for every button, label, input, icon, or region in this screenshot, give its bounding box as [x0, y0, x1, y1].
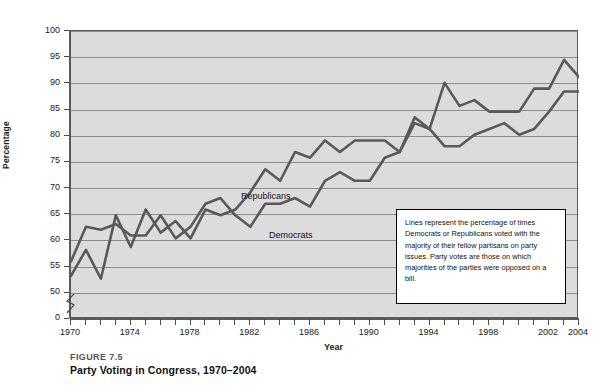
x-tick-label-1978: 1978 [170, 327, 210, 337]
x-tick-label-1986: 1986 [289, 327, 329, 337]
x-tick-mark-1974 [130, 319, 131, 325]
figure-title: Party Voting in Congress, 1970–2004 [70, 364, 490, 376]
x-tick-mark-1997 [473, 319, 474, 325]
x-tick-mark-1975 [145, 319, 146, 325]
x-tick-mark-1970 [70, 319, 71, 325]
x-tick-mark-1991 [384, 319, 385, 325]
x-tick-mark-2003 [563, 319, 564, 325]
x-tick-mark-1981 [234, 319, 235, 325]
y-tick-label-95: 95 [30, 52, 60, 61]
x-tick-label-1970: 1970 [50, 327, 90, 337]
y-tick-label-70: 70 [30, 183, 60, 192]
x-tick-mark-1989 [354, 319, 355, 325]
y-tick-label-80: 80 [30, 130, 60, 139]
x-tick-mark-2004 [578, 319, 579, 325]
x-tick-label-1974: 1974 [110, 327, 150, 337]
x-tick-mark-1992 [399, 319, 400, 325]
y-tick-mark-0 [64, 318, 69, 319]
x-tick-mark-1984 [279, 319, 280, 325]
figure-container: Republicans Democrats Percentage 100 95 … [0, 0, 607, 392]
y-axis-title: Percentage [1, 85, 11, 205]
y-tick-label-60: 60 [30, 235, 60, 244]
caption-block: FIGURE 7.5 Party Voting in Congress, 197… [70, 352, 490, 376]
y-tick-label-90: 90 [30, 78, 60, 87]
y-tick-label-75: 75 [30, 156, 60, 165]
x-tick-mark-1987 [324, 319, 325, 325]
x-tick-mark-1993 [414, 319, 415, 325]
x-tick-mark-1978 [190, 319, 191, 325]
x-tick-mark-1973 [115, 319, 116, 325]
x-tick-mark-1988 [339, 319, 340, 325]
x-tick-mark-1986 [309, 319, 310, 325]
y-tick-mark-60 [64, 239, 69, 240]
x-tick-label-1998: 1998 [468, 327, 508, 337]
y-tick-mark-95 [64, 56, 69, 57]
x-tick-mark-1994 [429, 319, 430, 325]
x-tick-mark-1976 [160, 319, 161, 325]
x-tick-label-2004: 2004 [558, 327, 598, 337]
x-tick-mark-1980 [219, 319, 220, 325]
x-tick-label-1982: 1982 [229, 327, 269, 337]
y-tick-mark-100 [64, 30, 69, 31]
x-tick-mark-2002 [548, 319, 549, 325]
y-tick-label-55: 55 [30, 261, 60, 270]
x-tick-mark-1971 [85, 319, 86, 325]
x-tick-mark-1979 [204, 319, 205, 325]
x-tick-mark-1985 [294, 319, 295, 325]
annotation-text: Lines represent the percentage of times … [405, 217, 557, 285]
x-tick-label-1994: 1994 [409, 327, 449, 337]
y-tick-mark-90 [64, 82, 69, 83]
series-label-democrats: Democrats [269, 230, 313, 240]
x-tick-mark-1977 [175, 319, 176, 325]
x-tick-mark-1982 [249, 319, 250, 325]
x-tick-mark-2000 [518, 319, 519, 325]
y-tick-mark-85 [64, 109, 69, 110]
x-tick-mark-1996 [458, 319, 459, 325]
x-tick-mark-1990 [369, 319, 370, 325]
y-tick-mark-50 [64, 292, 69, 293]
figure-number: FIGURE 7.5 [70, 352, 490, 362]
x-tick-mark-2001 [533, 319, 534, 325]
x-tick-mark-1983 [264, 319, 265, 325]
x-tick-mark-1998 [488, 319, 489, 325]
x-tick-mark-1995 [444, 319, 445, 325]
y-tick-mark-70 [64, 187, 69, 188]
y-tick-label-85: 85 [30, 104, 60, 113]
y-tick-label-65: 65 [30, 209, 60, 218]
series-label-republicans: Republicans [241, 191, 291, 201]
x-axis-title: Year [0, 342, 607, 352]
y-tick-mark-65 [64, 213, 69, 214]
y-axis-line [69, 30, 71, 318]
x-tick-label-1990: 1990 [349, 327, 389, 337]
y-tick-label-0: 0 [30, 313, 60, 322]
y-tick-label-50: 50 [30, 287, 60, 296]
x-tick-mark-1972 [100, 319, 101, 325]
y-tick-mark-75 [64, 161, 69, 162]
y-tick-mark-80 [64, 135, 69, 136]
x-tick-mark-1999 [503, 319, 504, 325]
annotation-box: Lines represent the percentage of times … [396, 209, 566, 304]
y-tick-label-100: 100 [30, 26, 60, 35]
y-tick-mark-55 [64, 266, 69, 267]
axis-break-icon [63, 294, 79, 314]
